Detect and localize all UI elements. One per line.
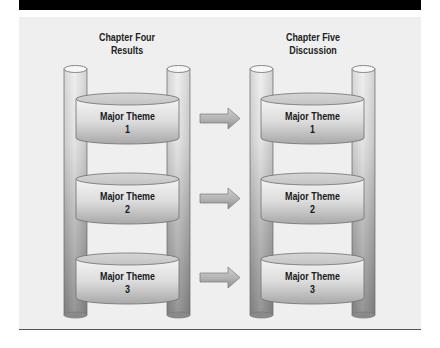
theme-label-right-2: Major Theme 2: [269, 190, 357, 216]
theme-name: Major Theme: [269, 190, 357, 203]
theme-number: 1: [84, 123, 172, 136]
theme-name: Major Theme: [269, 270, 357, 283]
theme-number: 2: [269, 203, 357, 216]
arrow-right-icon: [200, 267, 240, 288]
theme-label-left-3: Major Theme 3: [84, 270, 172, 296]
arrow-right-icon: [200, 188, 240, 209]
theme-name: Major Theme: [84, 110, 172, 123]
arrow-right-icon: [200, 108, 240, 129]
theme-label-left-1: Major Theme 1: [84, 110, 172, 136]
theme-number: 1: [269, 123, 357, 136]
theme-number: 2: [84, 203, 172, 216]
column-title-line1: Chapter Four: [59, 31, 195, 44]
theme-number: 3: [84, 283, 172, 296]
theme-label-left-2: Major Theme 2: [84, 190, 172, 216]
column-title-chapter-four: Chapter Four Results: [59, 31, 195, 57]
theme-label-right-3: Major Theme 3: [269, 270, 357, 296]
column-title-line2: Discussion: [245, 44, 381, 57]
column-title-line1: Chapter Five: [245, 31, 381, 44]
column-title-chapter-five: Chapter Five Discussion: [245, 31, 381, 57]
theme-name: Major Theme: [269, 110, 357, 123]
theme-number: 3: [269, 283, 357, 296]
column-title-line2: Results: [59, 44, 195, 57]
theme-name: Major Theme: [84, 270, 172, 283]
theme-label-right-1: Major Theme 1: [269, 110, 357, 136]
theme-name: Major Theme: [84, 190, 172, 203]
